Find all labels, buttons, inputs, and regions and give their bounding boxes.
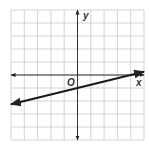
x-axis-label: x — [135, 77, 142, 88]
coordinate-graph: y x O — [0, 0, 149, 151]
y-axis-label: y — [82, 10, 89, 21]
origin-label: O — [67, 77, 75, 88]
axes — [11, 10, 144, 140]
